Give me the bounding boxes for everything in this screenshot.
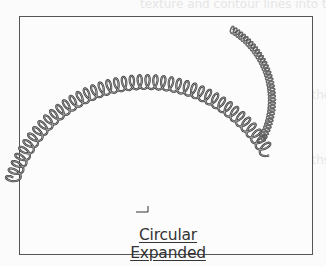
figure-caption: Circular Expanded xyxy=(105,226,231,262)
large-circular-coil xyxy=(6,75,270,181)
axis-marker-icon xyxy=(136,206,148,212)
